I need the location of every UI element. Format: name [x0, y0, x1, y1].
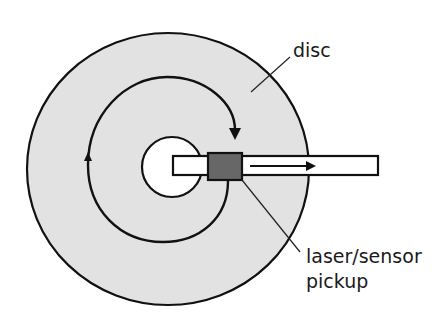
disc-label: disc — [293, 39, 331, 61]
laser-sensor-pickup — [208, 153, 242, 180]
disc-diagram: disc laser/sensor pickup — [0, 0, 436, 326]
pickup-label-line1: laser/sensor — [306, 245, 422, 267]
pickup-label-line2: pickup — [306, 270, 368, 292]
